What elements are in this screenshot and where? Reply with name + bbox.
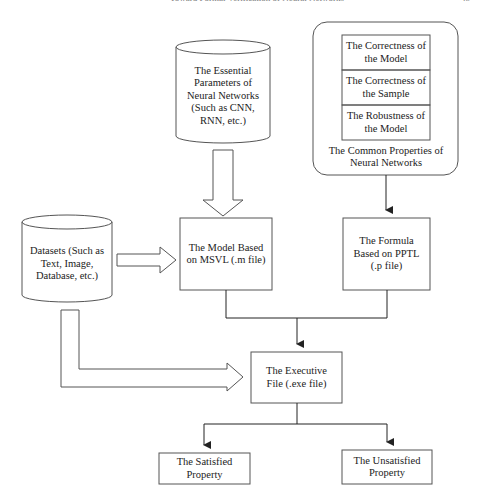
connector-model-to-merge <box>226 290 297 318</box>
hollow-arrow-params-to-model <box>203 150 243 216</box>
property-correctness-sample-label: The Correctness of the Sample <box>342 70 430 105</box>
unsatisfied-property-label: The Unsatisfied Property <box>342 450 432 484</box>
connector-formula-to-merge <box>297 290 387 318</box>
property-correctness-model-label: The Correctness of the Model <box>342 35 430 70</box>
executive-file-label: The Executive File (.exe file) <box>251 352 342 403</box>
hollow-arrow-datasets-to-executive <box>61 310 243 391</box>
model-label: The Model Based on MSVL (.m file) <box>182 218 270 290</box>
connector-split-to-satisfied <box>204 424 297 445</box>
connector-split-to-unsatisfied <box>297 424 387 442</box>
satisfied-property-label: The Satisfied Property <box>159 453 250 484</box>
properties-group-caption: The Common Properties of Neural Networks <box>318 142 454 172</box>
hollow-arrow-datasets-to-model <box>117 247 176 273</box>
formula-label: The Formula Based on PPTL (.p file) <box>345 218 428 290</box>
datasets-label: Datasets (Such as Text, Image, Database,… <box>24 232 110 296</box>
property-robustness-model-label: The Robustness of the Model <box>342 105 430 140</box>
essential-parameters-label: The Essential Parameters of Neural Netwo… <box>180 58 266 134</box>
